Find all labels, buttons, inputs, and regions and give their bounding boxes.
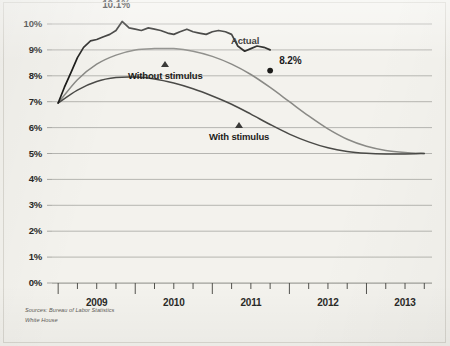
series-label-actual: Actual <box>231 35 259 46</box>
source-note-line-2: White House <box>25 316 114 326</box>
unemployment-rate-chart: 0%1%2%3%4%5%6%7%8%9%10% 2009201020112012… <box>0 0 450 346</box>
end-value-annotation: 8.2% <box>279 55 301 66</box>
series-label-without-stimulus: Without stimulus <box>128 70 203 81</box>
chart-plot-area <box>0 0 450 346</box>
series-label-with-stimulus: With stimulus <box>209 131 269 142</box>
source-note-line-1: Sources: Bureau of Labor Statistics <box>25 306 114 316</box>
with-stimulus-marker-triangle-icon <box>235 122 243 128</box>
without-stimulus-marker-triangle-icon <box>161 61 169 67</box>
data-point-markers <box>267 68 273 74</box>
x-axis <box>47 24 424 294</box>
peak-value-annotation: 10.1% <box>102 0 130 10</box>
source-note: Sources: Bureau of Labor Statistics Whit… <box>25 306 114 326</box>
